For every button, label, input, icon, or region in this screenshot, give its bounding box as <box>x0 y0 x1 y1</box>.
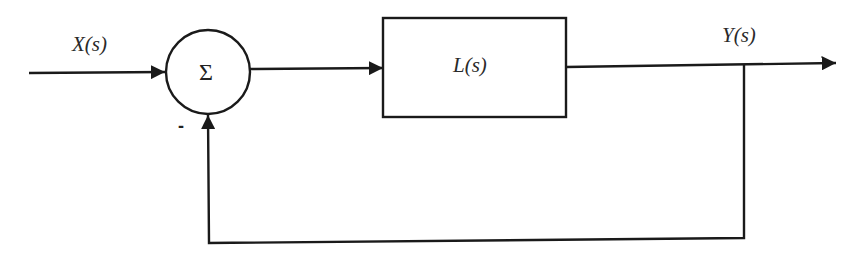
feedback-path <box>208 65 744 243</box>
forward-arrow <box>250 68 383 69</box>
block-diagram: X(s) Y(s) L(s) Σ - <box>0 0 867 263</box>
input-label: X(s) <box>72 34 107 55</box>
sigma-symbol: Σ <box>199 60 213 84</box>
feedback-minus-sign: - <box>178 117 184 135</box>
output-label: Y(s) <box>722 25 756 46</box>
output-arrow <box>566 63 836 67</box>
block-label: L(s) <box>453 55 487 76</box>
input-arrow <box>29 72 165 73</box>
